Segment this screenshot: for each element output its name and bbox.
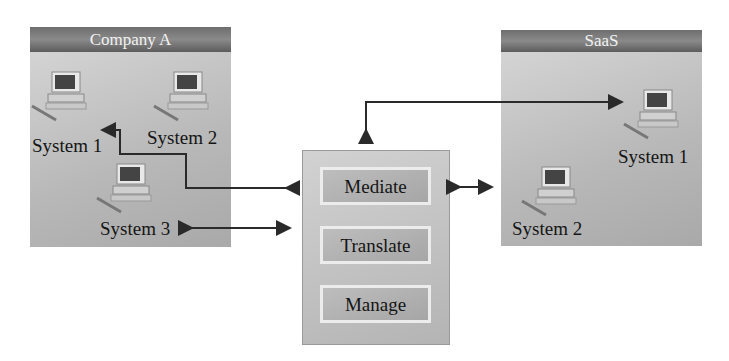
- arrow-company-system1-hub: [104, 130, 288, 188]
- connector-arrows: [0, 0, 729, 361]
- arrow-hub-saas-system1: [366, 102, 620, 132]
